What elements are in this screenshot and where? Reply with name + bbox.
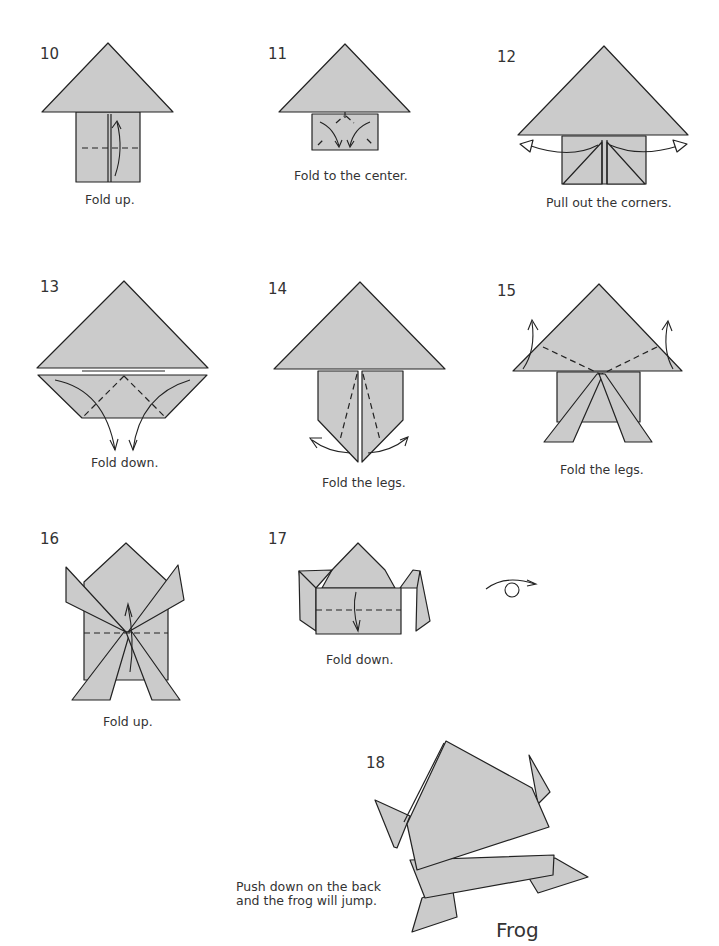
step-15: 15 Fold the legs. [480, 270, 719, 500]
step-caption: Fold the legs. [322, 475, 406, 490]
step-caption: Fold the legs. [560, 462, 644, 477]
final-model-title: Frog [496, 918, 539, 942]
step-18: 18 Push down on the back and the frog wi… [220, 720, 719, 946]
step-14: 14 Fold the legs. [240, 270, 480, 500]
turn-over-icon [480, 570, 540, 610]
step-10: 10 Fold up. [0, 0, 240, 220]
step-caption: Fold down. [91, 455, 158, 470]
step-caption: Fold up. [103, 714, 153, 729]
step-13: 13 Fold down. [0, 270, 240, 500]
step-10-diagram [0, 0, 240, 220]
step-17: 17 Fold down. [240, 520, 480, 680]
step-12-diagram [480, 0, 719, 220]
step-14-diagram [240, 270, 480, 500]
instruction-note: Push down on the back and the frog will … [236, 880, 381, 908]
step-16-diagram [0, 520, 240, 740]
step-11: 11 Fold to the center. [240, 0, 480, 220]
step-12: 12 Pull out the corners. [480, 0, 719, 220]
step-16: 16 Fold up. [0, 520, 240, 740]
step-11-diagram [240, 0, 480, 220]
step-caption: Fold to the center. [294, 168, 408, 183]
final-frog-diagram [220, 720, 719, 946]
step-caption: Fold up. [85, 192, 135, 207]
step-caption: Fold down. [326, 652, 393, 667]
step-caption: Pull out the corners. [546, 195, 672, 210]
